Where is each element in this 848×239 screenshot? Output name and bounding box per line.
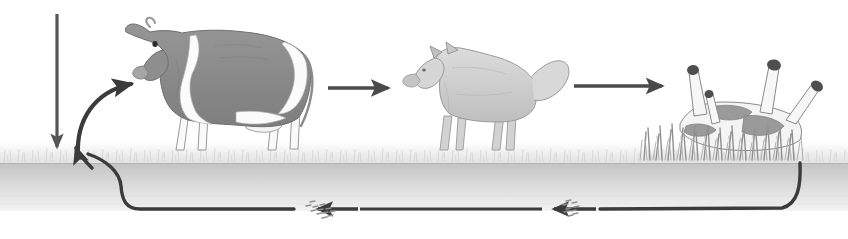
cow-horn [146,18,155,27]
carcass-hooves [686,58,825,98]
wolf-snout [403,74,420,87]
wolf-figure [403,42,569,150]
wolf-tail [532,61,569,101]
cow-muzzle [133,66,148,79]
cow-figure [125,18,312,150]
diagram-canvas [0,0,848,239]
wolf-eye [422,68,426,71]
cow-eye [152,41,157,47]
ground-group [0,142,848,211]
wolf-body [435,47,537,122]
food-chain-diagram [0,0,848,239]
